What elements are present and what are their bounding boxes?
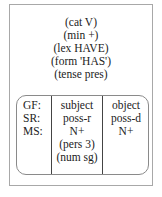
argument-table: GF: SR: MS: subject poss-r N+ (pers 3) (… [16,95,149,175]
feature-form: (form 'HAS') [10,55,152,68]
object-ms: N+ [103,125,149,138]
head-features: (cat V) (min +) (lex HAVE) (form 'HAS') … [10,16,152,81]
subject-num: (num sg) [52,151,102,164]
object-gf: object [103,99,149,112]
subject-column: subject poss-r N+ (pers 3) (num sg) [51,96,103,174]
subject-sr: poss-r [52,112,102,125]
label-gf: GF: [23,99,51,112]
row-labels: GF: SR: MS: [17,96,51,174]
label-sr: SR: [23,112,51,125]
feature-min: (min +) [10,29,152,42]
feature-tense: (tense pres) [10,68,152,81]
subject-ms: N+ [52,125,102,138]
feature-lex: (lex HAVE) [10,42,152,55]
feature-structure-box: (cat V) (min +) (lex HAVE) (form 'HAS') … [9,4,153,186]
subject-pers: (pers 3) [52,138,102,151]
feature-cat: (cat V) [10,16,152,29]
object-sr: poss-d [103,112,149,125]
object-column: object poss-d N+ [103,96,149,174]
label-ms: MS: [23,125,51,138]
subject-gf: subject [52,99,102,112]
